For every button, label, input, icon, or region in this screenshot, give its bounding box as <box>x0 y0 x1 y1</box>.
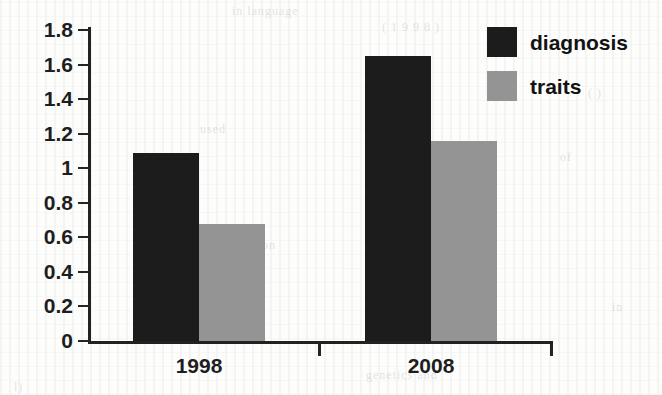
y-axis-tick-label: 0 <box>13 330 73 351</box>
bar-diagnosis-1998 <box>133 153 199 341</box>
legend-label-diagnosis: diagnosis <box>530 32 628 53</box>
y-axis-tick-label: 1 <box>13 157 73 178</box>
y-axis-tick <box>78 29 89 31</box>
y-axis-tick-label: 1.2 <box>13 123 73 144</box>
y-axis-tick <box>78 271 89 273</box>
bar-traits-1998 <box>199 224 265 341</box>
y-axis-line <box>88 27 91 344</box>
y-axis-tick <box>78 202 89 204</box>
y-axis-tick-label: 1.8 <box>13 19 73 40</box>
x-axis-separator-tick <box>318 343 321 356</box>
x-axis-end-tick <box>550 343 553 356</box>
y-axis-tick-label: 0.8 <box>13 192 73 213</box>
y-axis-tick <box>78 340 89 342</box>
y-axis-tick-label: 0.4 <box>13 261 73 282</box>
legend-item-diagnosis: diagnosis <box>487 20 628 64</box>
y-axis-tick <box>78 133 89 135</box>
bar-traits-2008 <box>431 141 497 341</box>
y-axis-tick <box>78 305 89 307</box>
y-axis-tick <box>78 236 89 238</box>
x-axis-label-1998: 1998 <box>139 355 259 376</box>
bar-chart: in language( 1 9 9 8 )of the( )usedofoni… <box>0 0 662 395</box>
x-axis-label-2008: 2008 <box>371 355 491 376</box>
y-axis-tick-label: 1.6 <box>13 54 73 75</box>
legend-item-traits: traits <box>487 64 628 108</box>
y-axis-tick-label: 0.6 <box>13 226 73 247</box>
legend-swatch-diagnosis <box>487 27 517 57</box>
y-axis-tick <box>78 167 89 169</box>
bar-diagnosis-2008 <box>365 56 431 341</box>
y-axis-tick <box>78 64 89 66</box>
y-axis-tick-label: 0.2 <box>13 295 73 316</box>
y-axis-tick <box>78 98 89 100</box>
y-axis-tick-label: 1.4 <box>13 88 73 109</box>
legend: diagnosis traits <box>487 20 628 108</box>
legend-swatch-traits <box>487 71 517 101</box>
legend-label-traits: traits <box>530 76 581 97</box>
